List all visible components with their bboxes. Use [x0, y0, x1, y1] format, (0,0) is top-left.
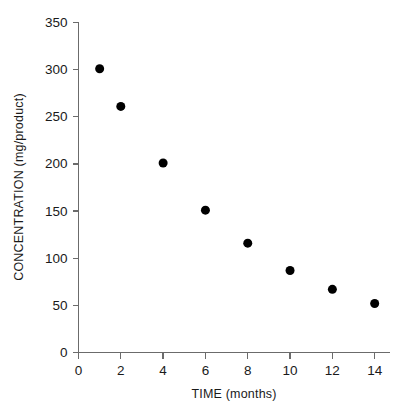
y-tick-label: 100 — [45, 251, 68, 266]
x-tick-label: 4 — [159, 363, 167, 378]
data-point — [243, 239, 252, 248]
x-tick-label: 14 — [367, 363, 383, 378]
y-tick-label: 0 — [60, 345, 68, 360]
data-point — [116, 102, 125, 111]
data-point — [95, 64, 104, 73]
data-point — [201, 206, 210, 215]
x-tick-label: 2 — [117, 363, 125, 378]
x-axis-title: TIME (months) — [191, 387, 276, 401]
data-point — [286, 266, 295, 275]
data-point — [370, 299, 379, 308]
x-tick-label: 12 — [325, 363, 340, 378]
x-tick-label: 10 — [283, 363, 298, 378]
y-tick-label: 350 — [45, 15, 68, 30]
scatter-plot: 050100150200250300350 02468101214 TIME (… — [0, 0, 411, 415]
y-tick-label: 50 — [52, 298, 67, 313]
y-tick-label: 300 — [45, 62, 68, 77]
x-tick-label: 6 — [202, 363, 210, 378]
x-tick-label: 0 — [75, 363, 83, 378]
data-point — [328, 285, 337, 294]
y-tick-label: 250 — [45, 109, 68, 124]
chart-figure: 050100150200250300350 02468101214 TIME (… — [0, 0, 411, 415]
y-axis-title: CONCENTRATION (mg/product) — [12, 93, 26, 281]
y-tick-label: 200 — [45, 156, 68, 171]
y-tick-label: 150 — [45, 204, 68, 219]
x-tick-label: 8 — [244, 363, 252, 378]
data-point — [159, 158, 168, 167]
